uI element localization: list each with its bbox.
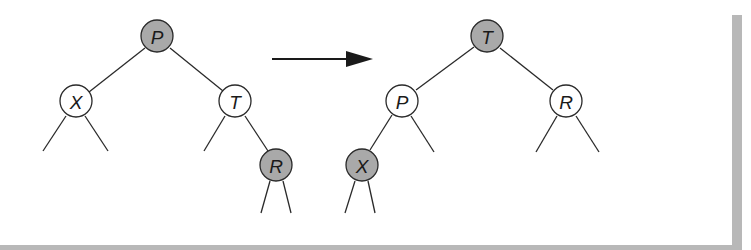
- node-x: X: [346, 149, 378, 181]
- node-label: X: [355, 156, 370, 177]
- node-label: P: [396, 92, 409, 113]
- subtree-edge: [411, 116, 434, 152]
- subtree-edge: [204, 116, 225, 151]
- subtree-edge: [261, 181, 270, 213]
- edge-t-r: [500, 48, 553, 90]
- node-p: P: [386, 85, 418, 117]
- subtree-edge: [43, 116, 66, 151]
- arrow-right-icon: [272, 51, 373, 67]
- node-t: T: [471, 20, 503, 52]
- edge-t-p: [416, 47, 474, 90]
- tree-rotation-diagram: P X T R T P: [0, 0, 751, 250]
- edge-p-x: [370, 115, 392, 150]
- subtree-edge: [576, 116, 599, 152]
- edge-t-r: [245, 116, 268, 151]
- node-x: X: [60, 85, 92, 117]
- node-r: R: [260, 149, 292, 181]
- subtree-edge: [345, 181, 355, 213]
- node-label: X: [69, 92, 84, 113]
- node-t: T: [219, 85, 251, 117]
- frame-shadow-right: [732, 15, 742, 250]
- node-r: R: [550, 85, 582, 117]
- subtree-edge: [536, 116, 557, 152]
- node-p: P: [141, 20, 173, 52]
- before-tree: P X T R: [43, 20, 292, 213]
- edge-p-x: [89, 48, 145, 92]
- node-label: R: [269, 156, 283, 177]
- node-label: P: [151, 27, 164, 48]
- node-label: R: [559, 92, 573, 113]
- node-label: T: [229, 92, 242, 113]
- node-label: T: [481, 27, 494, 48]
- edge-p-t: [170, 48, 223, 91]
- subtree-edge: [368, 181, 375, 213]
- subtree-edge: [283, 181, 291, 213]
- frame-shadow-bottom: [0, 245, 742, 250]
- after-tree: T P R X: [345, 20, 599, 213]
- subtree-edge: [85, 116, 108, 151]
